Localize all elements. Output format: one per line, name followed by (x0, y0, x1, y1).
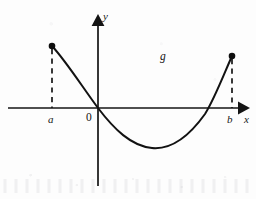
graph-figure: y x a b 0 g (0, 0, 256, 199)
graph-canvas (0, 0, 256, 199)
function-curve-g (52, 46, 232, 148)
function-curve-group (52, 46, 232, 148)
endpoint-dot-b (229, 53, 236, 60)
endpoint-markers-group (49, 43, 236, 60)
drop-lines-group (52, 49, 232, 108)
function-name-label: g (160, 51, 166, 63)
origin-label: 0 (86, 112, 92, 124)
axes-group (8, 14, 250, 186)
y-axis-label: y (103, 11, 108, 22)
endpoint-dot-a (49, 43, 56, 50)
x-tick-label-b: b (227, 114, 233, 125)
x-tick-label-a: a (48, 114, 54, 125)
x-axis-label: x (244, 114, 249, 125)
